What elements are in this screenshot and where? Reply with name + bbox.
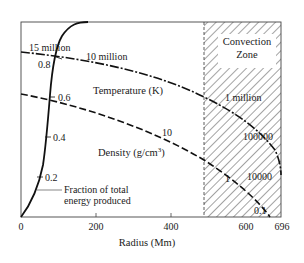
svg-text:1 million: 1 million [225, 92, 261, 103]
svg-text:200: 200 [89, 221, 104, 232]
svg-text:0.4: 0.4 [53, 132, 66, 143]
temperature-axis-label: Temperature (K) [93, 85, 164, 97]
density-axis-label: Density (g/cm3) [98, 146, 165, 159]
x-axis-title: Radius (Mm) [119, 237, 176, 249]
svg-text:10000: 10000 [247, 171, 272, 182]
x-axis: 0 200 400 600 696 Radius (Mm) [19, 213, 290, 249]
svg-text:0.1: 0.1 [254, 205, 267, 216]
svg-text:0.8: 0.8 [38, 59, 51, 70]
svg-text:0: 0 [19, 221, 24, 232]
svg-text:100000: 100000 [243, 131, 273, 142]
svg-text:15 million: 15 million [29, 42, 70, 53]
energy-label-2: energy produced [64, 195, 131, 206]
energy-label-1: Fraction of total [64, 184, 129, 195]
convection-label-2: Zone [236, 49, 258, 60]
svg-text:10: 10 [162, 127, 172, 138]
svg-text:1: 1 [225, 173, 230, 184]
convection-label-1: Convection [223, 36, 272, 47]
svg-text:0.6: 0.6 [58, 92, 71, 103]
svg-text:400: 400 [164, 221, 179, 232]
svg-text:600: 600 [239, 221, 254, 232]
svg-text:0.2: 0.2 [45, 172, 58, 183]
svg-text:696: 696 [275, 221, 290, 232]
svg-text:10 million: 10 million [86, 51, 127, 62]
sun-interior-chart: Convection Zone 0.8 0.6 0.4 0.2 Fraction… [0, 0, 304, 263]
